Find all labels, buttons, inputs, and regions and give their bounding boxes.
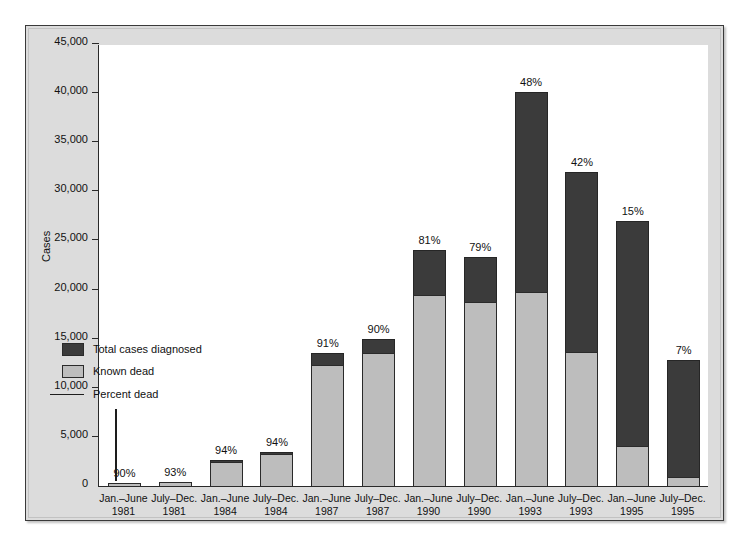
bars-layer: 90%93%94%94%91%90%81%79%48%42%15%7% bbox=[99, 45, 708, 486]
x-axis-label: Jan.–June1995 bbox=[606, 492, 657, 517]
bar-segment-known-dead[interactable] bbox=[515, 292, 548, 486]
bar-percent-label: 90% bbox=[368, 323, 390, 335]
y-axis-tick-mark bbox=[92, 239, 99, 240]
y-axis-tick-label: 40,000 bbox=[54, 84, 88, 96]
bar-percent-label: 94% bbox=[215, 444, 237, 456]
x-axis-label-year: 1990 bbox=[403, 505, 454, 518]
bar-segment-known-dead[interactable] bbox=[311, 365, 344, 486]
bar-group[interactable]: 48% bbox=[515, 44, 548, 486]
bar-segment-known-dead[interactable] bbox=[108, 483, 141, 486]
x-axis-label-period: July–Dec. bbox=[657, 492, 708, 505]
y-axis-tick-mark bbox=[92, 436, 99, 437]
bar-segment-known-dead[interactable] bbox=[565, 352, 598, 486]
x-axis-label-year: 1984 bbox=[251, 505, 302, 518]
y-axis-title: Cases bbox=[40, 231, 52, 262]
x-axis-label: July–Dec.1990 bbox=[454, 492, 505, 517]
x-axis-label-year: 1981 bbox=[149, 505, 200, 518]
figure-frame: Cases 05,00010,00015,00020,00025,00030,0… bbox=[25, 25, 724, 521]
bar-segment-known-dead[interactable] bbox=[260, 454, 293, 486]
x-axis-label-year: 1987 bbox=[301, 505, 352, 518]
y-axis-tick-mark bbox=[92, 190, 99, 191]
x-axis-label-period: Jan.–June bbox=[301, 492, 352, 505]
plot-area: 05,00010,00015,00020,00025,00030,00035,0… bbox=[98, 45, 708, 487]
x-axis-label: Jan.–June1990 bbox=[403, 492, 454, 517]
y-axis-tick: 40,000 bbox=[65, 92, 99, 93]
x-axis-label: Jan.–June1984 bbox=[200, 492, 251, 517]
bar-segment-total-cases[interactable] bbox=[667, 360, 700, 486]
x-axis-label-period: July–Dec. bbox=[556, 492, 607, 505]
y-axis-tick-label: 45,000 bbox=[54, 35, 88, 47]
x-axis-label-year: 1993 bbox=[505, 505, 556, 518]
bar-segment-known-dead[interactable] bbox=[362, 353, 395, 486]
y-axis-tick-label: 5,000 bbox=[60, 428, 88, 440]
bar-percent-label: 48% bbox=[520, 76, 542, 88]
x-axis-label-period: July–Dec. bbox=[149, 492, 200, 505]
bar-percent-label: 94% bbox=[266, 436, 288, 448]
bar-percent-label: 42% bbox=[571, 156, 593, 168]
legend-item-known-dead: Known dead bbox=[62, 360, 202, 382]
y-axis-tick: 25,000 bbox=[65, 239, 99, 240]
bar-group[interactable]: 90% bbox=[108, 44, 141, 486]
x-axis-label-year: 1981 bbox=[98, 505, 149, 518]
x-axis-label: July–Dec.1987 bbox=[352, 492, 403, 517]
x-axis-label-period: Jan.–June bbox=[200, 492, 251, 505]
bar-group[interactable]: 91% bbox=[311, 44, 344, 486]
x-axis-label-period: July–Dec. bbox=[251, 492, 302, 505]
bar-group[interactable]: 42% bbox=[565, 44, 598, 486]
x-axis-label-year: 1993 bbox=[556, 505, 607, 518]
x-axis-label-year: 1987 bbox=[352, 505, 403, 518]
x-axis-label: July–Dec.1993 bbox=[556, 492, 607, 517]
x-axis-label: July–Dec.1995 bbox=[657, 492, 708, 517]
bar-group[interactable]: 94% bbox=[260, 44, 293, 486]
bar-group[interactable]: 90% bbox=[362, 44, 395, 486]
bar-group[interactable]: 81% bbox=[413, 44, 446, 486]
x-axis-label-period: July–Dec. bbox=[454, 492, 505, 505]
bar-segment-known-dead[interactable] bbox=[413, 295, 446, 486]
bar-segment-known-dead[interactable] bbox=[210, 462, 243, 486]
y-axis-tick-mark bbox=[92, 43, 99, 44]
y-axis-tick-mark bbox=[92, 289, 99, 290]
x-axis-label: Jan.–June1993 bbox=[505, 492, 556, 517]
bar-group[interactable]: 79% bbox=[464, 44, 497, 486]
legend-swatch-known-dead-icon bbox=[62, 365, 84, 378]
bar-percent-label: 91% bbox=[317, 337, 339, 349]
bar-segment-known-dead[interactable] bbox=[159, 482, 192, 486]
bar-percent-label: 81% bbox=[418, 234, 440, 246]
chart-screenshot: Cases 05,00010,00015,00020,00025,00030,0… bbox=[0, 0, 748, 554]
bar-group[interactable]: 93% bbox=[159, 44, 192, 486]
x-axis-label: Jan.–June1981 bbox=[98, 492, 149, 517]
legend-item-percent-dead: Percent dead bbox=[62, 382, 202, 406]
y-axis-tick-label: 20,000 bbox=[54, 281, 88, 293]
percent-dead-leader-line bbox=[115, 409, 116, 481]
bar-segment-known-dead[interactable] bbox=[464, 302, 497, 486]
bar-segment-known-dead[interactable] bbox=[616, 446, 649, 486]
y-axis-tick: 45,000 bbox=[65, 43, 99, 44]
y-axis-tick-mark bbox=[92, 92, 99, 93]
y-axis-tick-label: 35,000 bbox=[54, 133, 88, 145]
legend-swatch-total-cases-icon bbox=[62, 343, 84, 356]
y-axis-tick: 0 bbox=[65, 485, 99, 486]
y-axis-tick: 20,000 bbox=[65, 289, 99, 290]
bar-percent-label: 79% bbox=[469, 241, 491, 253]
bar-group[interactable]: 7% bbox=[667, 44, 700, 486]
bar-group[interactable]: 94% bbox=[210, 44, 243, 486]
bar-group[interactable]: 15% bbox=[616, 44, 649, 486]
x-axis-label-year: 1995 bbox=[606, 505, 657, 518]
y-axis-tick-label: 25,000 bbox=[54, 231, 88, 243]
x-axis-label-year: 1990 bbox=[454, 505, 505, 518]
bar-percent-label: 90% bbox=[113, 467, 135, 479]
x-axis-label: July–Dec.1981 bbox=[149, 492, 200, 517]
y-axis-tick: 30,000 bbox=[65, 190, 99, 191]
x-axis-label-period: Jan.–June bbox=[98, 492, 149, 505]
legend: Total cases diagnosed Known dead Percent… bbox=[62, 338, 202, 406]
x-axis-label: Jan.–June1987 bbox=[301, 492, 352, 517]
y-axis-tick-mark bbox=[92, 141, 99, 142]
x-axis-label-period: July–Dec. bbox=[352, 492, 403, 505]
x-axis-label-period: Jan.–June bbox=[403, 492, 454, 505]
bar-percent-label: 7% bbox=[676, 344, 692, 356]
y-axis-tick: 35,000 bbox=[65, 141, 99, 142]
y-axis-tick: 5,000 bbox=[65, 436, 99, 437]
legend-label-known-dead: Known dead bbox=[93, 365, 154, 377]
legend-line-percent-dead-icon bbox=[62, 388, 84, 401]
bar-segment-known-dead[interactable] bbox=[667, 477, 700, 486]
